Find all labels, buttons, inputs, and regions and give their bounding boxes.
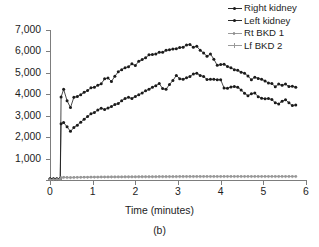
data-point bbox=[127, 65, 130, 68]
x-tick-1 bbox=[93, 181, 94, 185]
data-point bbox=[216, 64, 219, 67]
data-point bbox=[229, 175, 232, 178]
data-point bbox=[192, 46, 195, 49]
data-point bbox=[130, 175, 133, 178]
data-point bbox=[178, 77, 181, 80]
y-tick-label-6000: 6,000 bbox=[0, 46, 41, 56]
data-point bbox=[284, 83, 287, 86]
data-point bbox=[134, 64, 137, 67]
data-point bbox=[113, 175, 116, 178]
data-point bbox=[243, 175, 246, 178]
data-point bbox=[62, 176, 65, 179]
y-tick-label-3000: 3,000 bbox=[0, 111, 41, 121]
data-point bbox=[212, 78, 215, 81]
y-tick-label-2000: 2,000 bbox=[0, 132, 41, 142]
data-point bbox=[199, 175, 202, 178]
data-point bbox=[250, 175, 253, 178]
data-point bbox=[202, 51, 205, 54]
data-point bbox=[110, 176, 113, 179]
data-point bbox=[284, 98, 287, 101]
data-point bbox=[212, 58, 215, 61]
data-point bbox=[151, 86, 154, 89]
data-point bbox=[93, 111, 96, 114]
data-point bbox=[117, 175, 120, 178]
data-point bbox=[240, 175, 243, 178]
data-point bbox=[264, 80, 267, 83]
data-point bbox=[246, 94, 249, 97]
data-point bbox=[60, 96, 63, 99]
data-point bbox=[284, 175, 287, 178]
data-point bbox=[226, 65, 229, 68]
data-point bbox=[83, 118, 86, 121]
data-point bbox=[113, 103, 116, 106]
data-point bbox=[62, 88, 65, 91]
data-point bbox=[263, 175, 266, 178]
data-point bbox=[209, 53, 212, 56]
data-point bbox=[223, 63, 226, 66]
data-point bbox=[151, 53, 154, 56]
data-point bbox=[69, 106, 72, 109]
data-point bbox=[103, 176, 106, 179]
data-point bbox=[117, 102, 120, 105]
data-point bbox=[96, 176, 99, 179]
data-point bbox=[79, 121, 82, 124]
data-point bbox=[123, 175, 126, 178]
y-tick-label-1000: 1,000 bbox=[0, 154, 41, 164]
figure-caption: (b) bbox=[0, 225, 319, 236]
data-point bbox=[294, 104, 297, 107]
data-point bbox=[281, 84, 284, 87]
data-point bbox=[270, 82, 273, 85]
x-tick-label-3: 3 bbox=[175, 186, 181, 197]
data-point bbox=[175, 74, 178, 77]
data-point bbox=[287, 85, 290, 88]
data-point bbox=[130, 97, 133, 100]
data-point bbox=[202, 175, 205, 178]
data-point bbox=[60, 122, 63, 125]
data-point bbox=[206, 55, 209, 58]
data-point bbox=[260, 175, 263, 178]
data-point bbox=[277, 102, 280, 105]
data-point bbox=[103, 77, 106, 80]
data-point bbox=[144, 56, 147, 59]
data-point bbox=[192, 175, 195, 178]
x-tick-3 bbox=[178, 181, 179, 185]
data-point bbox=[171, 79, 174, 82]
data-point bbox=[154, 175, 157, 178]
x-tick-6 bbox=[306, 181, 307, 185]
data-point bbox=[127, 175, 130, 178]
data-point bbox=[246, 75, 249, 78]
data-point bbox=[106, 176, 109, 179]
plot-area bbox=[50, 30, 306, 180]
data-point bbox=[76, 124, 79, 127]
data-point bbox=[257, 175, 260, 178]
data-point bbox=[113, 75, 116, 78]
data-point bbox=[141, 58, 144, 61]
series-canvas bbox=[50, 30, 306, 180]
data-point bbox=[250, 78, 253, 81]
data-point bbox=[212, 175, 215, 178]
data-point bbox=[76, 176, 79, 179]
y-tick-label-4000: 4,000 bbox=[0, 89, 41, 99]
data-point bbox=[253, 76, 256, 79]
data-point bbox=[175, 47, 178, 50]
data-point bbox=[195, 45, 198, 48]
data-point bbox=[76, 95, 79, 98]
data-point bbox=[147, 53, 150, 56]
x-tick-label-6: 6 bbox=[303, 186, 309, 197]
series-right-kidney bbox=[49, 43, 298, 180]
data-point bbox=[158, 51, 161, 54]
data-point bbox=[260, 78, 263, 81]
data-point bbox=[120, 175, 123, 178]
series-line bbox=[50, 45, 296, 179]
data-point bbox=[182, 175, 185, 178]
data-point bbox=[281, 100, 284, 103]
data-point bbox=[287, 175, 290, 178]
data-point bbox=[100, 82, 103, 85]
data-point bbox=[89, 86, 92, 89]
data-point bbox=[107, 107, 110, 110]
data-point bbox=[257, 95, 260, 98]
data-point bbox=[236, 175, 239, 178]
data-point bbox=[250, 92, 253, 95]
data-point bbox=[158, 175, 161, 178]
x-tick-5 bbox=[263, 181, 264, 185]
